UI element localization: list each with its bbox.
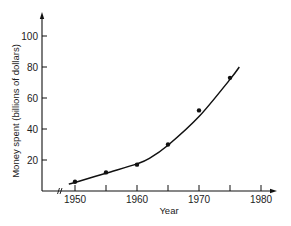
data-point xyxy=(197,108,201,112)
y-tick-label: 60 xyxy=(27,93,39,104)
x-axis-arrow-icon xyxy=(270,189,277,193)
data-point xyxy=(73,180,77,184)
data-point xyxy=(166,142,170,146)
x-tick-label: 1970 xyxy=(188,194,211,205)
y-ticks: 20406080100 xyxy=(21,31,47,166)
y-axis-label: Money spent (billions of dollars) xyxy=(10,44,21,178)
x-ticks: 1950196019701980 xyxy=(64,185,273,205)
data-point xyxy=(228,76,232,80)
axes xyxy=(40,12,277,194)
x-tick-label: 1960 xyxy=(126,194,149,205)
data-point xyxy=(135,162,139,166)
x-axis-label: Year xyxy=(159,205,178,216)
x-tick-label: 1950 xyxy=(64,194,87,205)
y-tick-label: 40 xyxy=(27,124,39,135)
data-point xyxy=(104,170,108,174)
y-tick-label: 100 xyxy=(21,31,38,42)
y-tick-label: 20 xyxy=(27,155,39,166)
y-tick-label: 80 xyxy=(27,62,39,73)
fitted-curve xyxy=(69,67,240,184)
y-axis-arrow-icon xyxy=(40,12,44,19)
line-chart: 20406080100 1950196019701980 Year Money … xyxy=(0,0,291,226)
x-tick-label: 1980 xyxy=(250,194,273,205)
data-points xyxy=(73,76,232,184)
